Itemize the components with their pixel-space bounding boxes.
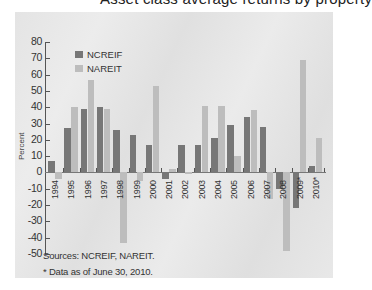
footnote: * Data as of June 30, 2010.	[43, 266, 153, 277]
y-tick-label: 60	[20, 68, 42, 80]
bar-nareit-2009	[300, 60, 307, 173]
chart-panel: Percent 80706050403020100-10-20-30-40-50…	[15, 12, 333, 278]
bar-ncreif-2003	[195, 145, 202, 173]
x-tick-label: 2010*	[311, 177, 321, 199]
chart-title-cut: Asset class average returns by property	[100, 0, 372, 7]
y-tick-label: -40	[20, 231, 42, 243]
legend-label-nareit: NAREIT	[87, 63, 122, 74]
y-tick-label: 0	[20, 165, 42, 177]
bar-ncreif-2004	[211, 138, 218, 172]
bar-ncreif-2002	[178, 145, 185, 173]
bar-ncreif-1997	[97, 107, 104, 172]
y-tick-label: 30	[20, 117, 42, 129]
y-tick-label: 70	[20, 51, 42, 63]
x-tick-label: 2007	[262, 181, 272, 200]
x-tick-label: 1994	[50, 181, 60, 200]
x-tick-label: 2008	[278, 181, 288, 200]
y-tick	[45, 42, 50, 43]
bar-ncreif-2007	[260, 127, 267, 173]
bar-ncreif-2006	[244, 117, 251, 172]
bar-nareit-2010	[316, 138, 323, 172]
bar-nareit-2000	[153, 86, 160, 172]
x-tick-label: 2004	[213, 181, 223, 200]
x-tick-label: 2009*	[295, 177, 305, 199]
y-tick	[45, 156, 50, 157]
legend-item-nareit: NAREIT	[75, 61, 122, 75]
bar-nareit-1996	[88, 80, 95, 173]
y-tick	[45, 75, 50, 76]
legend: NCREIF NAREIT	[75, 47, 122, 75]
bar-nareit-2004	[218, 106, 225, 173]
legend-label-ncreif: NCREIF	[87, 49, 122, 60]
x-tick-label: 1995	[66, 181, 76, 200]
x-tick-label: 1999	[132, 181, 142, 200]
bar-ncreif-2001	[162, 172, 169, 179]
x-tick-label: 2001	[164, 181, 174, 200]
y-tick-label: 80	[20, 35, 42, 47]
x-tick-label: 1997	[99, 181, 109, 200]
y-tick-label: -30	[20, 214, 42, 226]
y-tick	[45, 140, 50, 141]
bar-nareit-2003	[202, 106, 209, 173]
bar-ncreif-1995	[64, 128, 71, 172]
bar-nareit-1997	[104, 109, 111, 173]
x-tick	[324, 168, 325, 172]
bar-nareit-2005	[234, 156, 241, 172]
y-tick-label: 20	[20, 133, 42, 145]
y-tick	[45, 205, 50, 206]
x-tick-label: 1996	[83, 181, 93, 200]
bar-nareit-2001	[169, 169, 176, 172]
y-tick	[45, 58, 50, 59]
x-tick-label: 2003	[197, 181, 207, 200]
legend-swatch-ncreif	[75, 51, 83, 58]
y-tick	[45, 124, 50, 125]
title-strip: Asset class average returns by property	[0, 0, 338, 12]
y-tick-label: -10	[20, 182, 42, 194]
x-tick-label: 2006	[246, 181, 256, 200]
bar-nareit-1995	[71, 107, 78, 172]
bar-nareit-2006	[251, 110, 258, 172]
x-tick-label: 2002	[180, 181, 190, 200]
bar-ncreif-2000	[146, 145, 153, 173]
bar-ncreif-2010	[309, 166, 316, 173]
y-tick-label: -20	[20, 198, 42, 210]
bar-ncreif-1996	[81, 109, 88, 173]
x-tick-label: 2000	[148, 181, 158, 200]
legend-swatch-nareit	[75, 65, 83, 72]
bar-ncreif-1994	[48, 161, 55, 172]
bar-ncreif-1999	[130, 135, 137, 173]
legend-item-ncreif: NCREIF	[75, 47, 122, 61]
y-tick-label: 50	[20, 84, 42, 96]
y-tick	[45, 238, 50, 239]
y-tick-label: 10	[20, 149, 42, 161]
y-tick-label: 40	[20, 100, 42, 112]
y-tick-label: -50	[20, 247, 42, 259]
sources-note: Sources: NCREIF, NAREIT.	[43, 250, 154, 261]
y-tick	[45, 107, 50, 108]
y-tick	[45, 221, 50, 222]
x-tick-label: 2005	[229, 181, 239, 200]
bar-ncreif-1998	[113, 130, 120, 172]
x-tick-label: 1998	[115, 181, 125, 200]
bar-nareit-1994	[55, 172, 62, 179]
y-tick	[45, 91, 50, 92]
bar-nareit-2002	[185, 172, 192, 174]
bar-ncreif-2005	[227, 125, 234, 172]
